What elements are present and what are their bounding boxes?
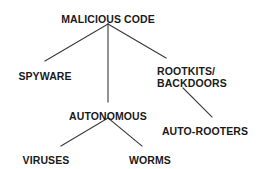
node-viruses: VIRUSES — [23, 155, 70, 167]
node-rootkits-line2: BACKDOORS — [157, 77, 227, 89]
node-autonomous: AUTONOMOUS — [69, 111, 147, 123]
node-worms: WORMS — [129, 155, 171, 167]
node-rootkits-backdoors: ROOTKITS/BACKDOORS — [157, 66, 227, 89]
edge-rootkits-to-auto-rooters — [183, 88, 212, 117]
malicious-code-taxonomy-diagram: MALICIOUS CODE SPYWARE ROOTKITS/BACKDOOR… — [0, 0, 276, 169]
edge-root-to-rootkits — [108, 24, 166, 58]
node-rootkits-line1: ROOTKITS/ — [157, 65, 215, 77]
node-auto-rooters: AUTO-ROOTERS — [162, 126, 248, 138]
node-malicious-code: MALICIOUS CODE — [61, 14, 155, 26]
node-spyware: SPYWARE — [18, 71, 71, 83]
edge-root-to-spyware — [45, 24, 108, 61]
